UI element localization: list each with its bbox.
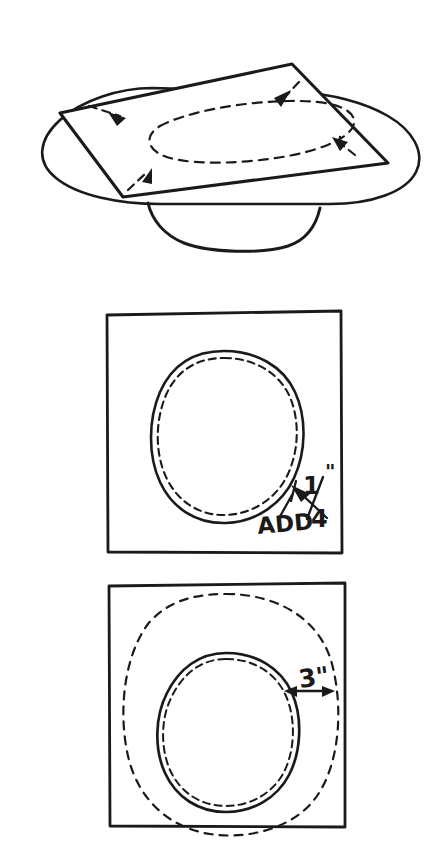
- add-label: ADD: [256, 508, 314, 539]
- middle-panel-traced-outline: ADD 1 4 ": [107, 311, 342, 553]
- middle-dashed-outline: [158, 358, 297, 515]
- quarter-inch-denominator: 4: [311, 505, 328, 533]
- quarter-inch-numerator: 1: [303, 472, 320, 500]
- bottom-solid-outline: [157, 653, 299, 812]
- figure-root: ADD 1 4 " 3": [0, 0, 440, 851]
- three-inch-label: 3": [297, 661, 331, 694]
- pan-bowl: [148, 203, 320, 251]
- bottom-inner-dashed-outline: [163, 659, 293, 806]
- bottom-outer-dashed-offset: [123, 594, 338, 836]
- quarter-inch-unit: ": [325, 459, 335, 483]
- bottom-panel-offset-outline: 3": [109, 583, 345, 836]
- middle-solid-outline: [151, 351, 304, 523]
- hand-drawn-diagram: ADD 1 4 " 3": [0, 0, 440, 851]
- bottom-panel-frame: [109, 583, 345, 827]
- top-panel-perspective-view: [42, 64, 419, 251]
